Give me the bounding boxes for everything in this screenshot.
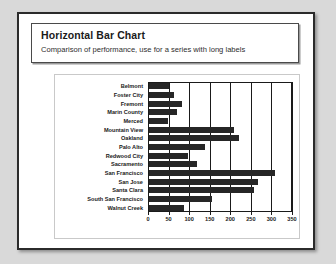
bar-row[interactable] (148, 205, 292, 211)
page-title: Horizontal Bar Chart (41, 29, 145, 41)
tick-label: 0 (146, 216, 149, 222)
bar-rows (148, 82, 292, 212)
bar[interactable] (148, 135, 239, 141)
tick-label: 50 (165, 216, 171, 222)
bar[interactable] (148, 101, 182, 107)
bar-row[interactable] (148, 170, 292, 176)
bar-row[interactable] (148, 101, 292, 107)
bar-row[interactable] (148, 118, 292, 124)
tick-50 (169, 212, 170, 215)
bar[interactable] (148, 118, 168, 124)
category-axis-labels: BelmontFoster CityFremontMarin CountyMer… (55, 82, 146, 212)
title-box: Horizontal Bar Chart Comparison of perfo… (31, 23, 299, 63)
tick-label: 100 (184, 216, 193, 222)
bar-row[interactable] (148, 109, 292, 115)
bar-row[interactable] (148, 92, 292, 98)
bar[interactable] (148, 179, 258, 185)
category-label: Mountain View (55, 127, 146, 133)
tick-label: 350 (287, 216, 296, 222)
bar[interactable] (148, 196, 212, 202)
bar[interactable] (148, 144, 205, 150)
bar[interactable] (148, 92, 174, 98)
tick-300 (271, 212, 272, 215)
tick-250 (251, 212, 252, 215)
bar-row[interactable] (148, 83, 292, 89)
bar-row[interactable] (148, 196, 292, 202)
chart-container: BelmontFoster CityFremontMarin CountyMer… (54, 74, 300, 239)
page-subtitle: Comparison of performance, use for a ser… (41, 45, 245, 54)
bar-row[interactable] (148, 127, 292, 133)
tick-label: 150 (205, 216, 214, 222)
category-label: Redwood City (55, 153, 146, 159)
category-label: Palo Alto (55, 144, 146, 150)
bar[interactable] (148, 109, 177, 115)
category-label: Walnut Creek (55, 205, 146, 211)
category-label: Fremont (55, 101, 146, 107)
gridline-350 (292, 82, 293, 212)
tick-label: 200 (226, 216, 235, 222)
category-label: Belmont (55, 83, 146, 89)
category-label: San Francisco (55, 170, 146, 176)
tick-0 (148, 212, 149, 215)
bar[interactable] (148, 161, 197, 167)
bar-row[interactable] (148, 187, 292, 193)
tick-100 (189, 212, 190, 215)
tick-label: 250 (246, 216, 255, 222)
category-label: Oakland (55, 135, 146, 141)
bar-row[interactable] (148, 179, 292, 185)
bar[interactable] (148, 205, 184, 211)
bar[interactable] (148, 170, 275, 176)
value-axis: 050100150200250300350 (148, 212, 292, 234)
bar[interactable] (148, 153, 188, 159)
category-label: Merced (55, 118, 146, 124)
category-label: Marin County (55, 109, 146, 115)
plot-area (148, 82, 292, 212)
tick-350 (292, 212, 293, 215)
bar[interactable] (148, 187, 254, 193)
tick-150 (210, 212, 211, 215)
category-label: Sacramento (55, 161, 146, 167)
bar-row[interactable] (148, 135, 292, 141)
bar[interactable] (148, 83, 169, 89)
tick-label: 300 (267, 216, 276, 222)
category-label: San Jose (55, 179, 146, 185)
tick-200 (230, 212, 231, 215)
category-label: Foster City (55, 92, 146, 98)
slide-frame: Horizontal Bar Chart Comparison of perfo… (17, 12, 315, 250)
bar-row[interactable] (148, 153, 292, 159)
category-label: Santa Clara (55, 187, 146, 193)
bar[interactable] (148, 127, 234, 133)
category-label: South San Francisco (55, 196, 146, 202)
bar-row[interactable] (148, 144, 292, 150)
bar-row[interactable] (148, 161, 292, 167)
